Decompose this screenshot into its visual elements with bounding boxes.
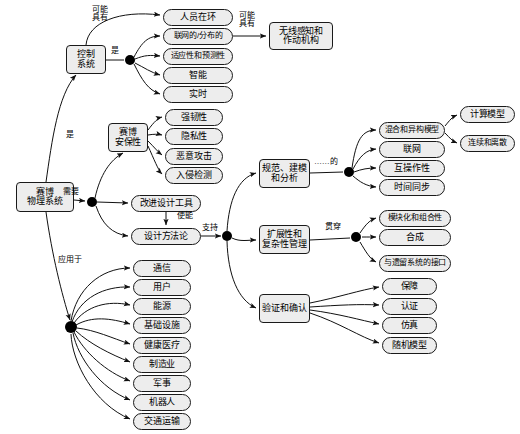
node-attack[interactable]: 恶意攻击 <box>165 148 223 165</box>
node-tools[interactable]: 改进设计工具 <box>131 195 201 212</box>
node-military[interactable]: 军事 <box>133 375 191 392</box>
hub-control[interactable] <box>125 55 135 65</box>
edge-p-ver-crt <box>310 305 379 307</box>
node-label: 扩展性和 复杂性管理 <box>262 230 306 249</box>
hub-spec[interactable] <box>344 167 354 177</box>
edge-p-hubn-sec <box>95 153 123 198</box>
node-networked[interactable]: 联网的/分布的 <box>163 28 233 45</box>
node-synthesis[interactable]: 合成 <box>379 229 451 246</box>
el-enables: 使能 <box>177 212 193 220</box>
edge-p-scl-hub <box>310 238 350 240</box>
node-label: 适应性和预测性 <box>171 52 226 60</box>
node-label: 基础设施 <box>144 321 179 330</box>
node-transport[interactable]: 交通运输 <box>133 413 191 430</box>
node-label: 制造业 <box>149 360 175 369</box>
edge-p-ap-energy <box>74 303 130 323</box>
node-label: 改进设计工具 <box>140 199 193 208</box>
node-user[interactable]: 用户 <box>133 279 191 296</box>
edge-p-ap-infra <box>76 319 130 325</box>
node-compmodel[interactable]: 计算模型 <box>460 106 515 123</box>
node-label: 计算模型 <box>470 110 505 119</box>
node-modular[interactable]: 模块化和组合性 <box>379 210 451 227</box>
node-label: 军事 <box>153 379 171 388</box>
el-through: 贯穿 <box>325 223 341 231</box>
node-label: 模块化和组合性 <box>388 214 443 222</box>
node-label: 交通运输 <box>144 417 179 426</box>
hub-apply[interactable] <box>65 321 77 333</box>
node-realtime[interactable]: 实时 <box>163 86 233 103</box>
node-robust[interactable]: 强韧性 <box>165 109 223 126</box>
node-scalability[interactable]: 扩展性和 复杂性管理 <box>259 225 310 254</box>
node-methodology[interactable]: 设计方法论 <box>131 228 201 245</box>
node-label: 随机模型 <box>392 341 427 350</box>
node-net2[interactable]: 联网 <box>379 141 445 158</box>
node-simulation[interactable]: 仿真 <box>382 317 437 334</box>
node-manufact[interactable]: 制造业 <box>133 356 191 373</box>
edge-p-hubs-scale <box>232 238 256 241</box>
node-wireless[interactable]: 无线感知和 作动机构 <box>269 22 333 50</box>
edge-p-hsp-tsy <box>353 176 376 187</box>
edge-p-hsc-mod <box>360 218 376 233</box>
edge-p-hubs-spec <box>227 173 256 231</box>
node-intelligent[interactable]: 智能 <box>163 67 233 84</box>
node-interop[interactable]: 互操作性 <box>379 160 445 177</box>
node-energy[interactable]: 能源 <box>133 298 191 315</box>
edge-p-hyb-cd <box>445 133 457 143</box>
node-infra[interactable]: 基础设施 <box>133 317 191 334</box>
edge-p-ver-stc <box>310 313 379 343</box>
node-label: 赛博 安保性 <box>115 128 141 147</box>
node-label: 仿真 <box>401 321 419 330</box>
node-label: 验证和确认 <box>262 304 306 313</box>
edge-p-hubn-meth <box>96 206 128 236</box>
node-robotics[interactable]: 机器人 <box>133 394 191 411</box>
node-hybrid[interactable]: 混合和异构模型 <box>379 122 445 139</box>
node-human[interactable]: 人员在环 <box>163 9 233 26</box>
edge-p-hubn-tools <box>97 202 128 203</box>
edge-p-hubs-ver <box>227 241 256 308</box>
el-may-have-1: 可能 具有 <box>92 6 108 22</box>
el-needs: 需要 <box>63 188 79 196</box>
node-contdisc[interactable]: 连续和离散 <box>460 135 515 152</box>
node-health[interactable]: 健康医疗 <box>133 337 191 354</box>
edge-p-hsc-leg <box>360 242 376 262</box>
edge-p-hsp-net2 <box>353 149 376 169</box>
edge-p-hsp-hyb <box>352 130 376 168</box>
node-spec[interactable]: 规范、建模 和分析 <box>259 159 310 188</box>
edge-p-hub-adap <box>135 55 160 59</box>
node-certify[interactable]: 认证 <box>382 298 437 315</box>
edge-p-sec-rob <box>148 117 162 130</box>
el-is-root: 是 <box>66 131 74 139</box>
node-intrusion[interactable]: 入侵检测 <box>165 167 223 184</box>
edge-p-spec-hub <box>310 172 343 173</box>
node-label: 联网的/分布的 <box>174 32 223 40</box>
hub-needs[interactable] <box>87 197 97 207</box>
node-privacy[interactable]: 隐私性 <box>165 128 223 145</box>
node-assurance[interactable]: 保障 <box>382 278 437 295</box>
edge-p-ap-rob <box>73 333 130 400</box>
node-label: 强韧性 <box>181 113 207 122</box>
node-security[interactable]: 赛博 安保性 <box>108 123 148 152</box>
node-label: 赛博 物理系统 <box>27 188 62 207</box>
edge-p-ver-asr <box>310 287 379 303</box>
node-verification[interactable]: 验证和确认 <box>259 294 310 323</box>
node-label: 联网 <box>403 145 421 154</box>
node-label: 保障 <box>401 282 419 291</box>
node-legacy[interactable]: 与遗留系统的接口 <box>379 255 451 272</box>
node-label: 能源 <box>153 302 171 311</box>
node-timesync[interactable]: 时间同步 <box>379 179 445 196</box>
node-label: 智能 <box>189 71 207 80</box>
hub-support[interactable] <box>222 231 232 241</box>
node-control[interactable]: 控制 系统 <box>66 45 106 74</box>
node-label: 通信 <box>153 264 171 273</box>
node-label: 规范、建模 和分析 <box>262 164 306 183</box>
node-label: 连续和离散 <box>468 139 507 147</box>
concept-map-canvas: 赛博 物理系统控制 系统人员在环联网的/分布的适应性和预测性智能实时无线感知和 … <box>0 0 520 434</box>
node-comm[interactable]: 通信 <box>133 260 191 277</box>
node-label: 合成 <box>406 233 424 242</box>
node-adaptive[interactable]: 适应性和预测性 <box>163 48 233 65</box>
edge-p-hub-rt <box>134 64 160 94</box>
hub-scale[interactable] <box>351 232 361 242</box>
edge-p-ap-manu <box>76 331 130 362</box>
node-stochastic[interactable]: 随机模型 <box>382 337 437 354</box>
node-label: 用户 <box>153 283 171 292</box>
